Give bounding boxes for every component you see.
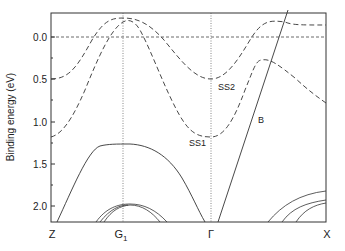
band-annotations: SS2 SS1 B	[189, 82, 264, 148]
ss2-label: SS2	[218, 82, 235, 92]
xtick-label-x: X	[323, 228, 331, 240]
xtick-label-g1: G1	[114, 228, 128, 243]
x-tick-labels: Z G1 Γ X	[49, 228, 332, 243]
b-band-line	[218, 10, 288, 222]
y-axis-ticks	[51, 37, 55, 206]
ytick-label: 0.5	[33, 74, 47, 85]
y-tick-labels: 0.0 0.5 1.0 1.5 2.0	[33, 32, 47, 212]
bulk-band-g1-outer	[96, 204, 167, 222]
ytick-label: 2.0	[33, 201, 47, 212]
band-structure-chart: 0.0 0.5 1.0 1.5 2.0 Binding energy (eV) …	[0, 0, 345, 251]
bulk-band-dome	[57, 144, 205, 222]
ss2-band-curve	[51, 18, 326, 79]
ss1-band-curve	[51, 21, 326, 137]
b-label: B	[258, 115, 264, 125]
xtick-label-gamma: Γ	[208, 228, 214, 240]
ytick-label: 0.0	[33, 32, 47, 43]
ss1-label: SS1	[189, 138, 206, 148]
xtick-label-z: Z	[49, 228, 56, 240]
ytick-label: 1.0	[33, 117, 47, 128]
bulk-band-x-outer	[268, 191, 326, 222]
bulk-band-x-inner	[296, 203, 326, 222]
ytick-label: 1.5	[33, 159, 47, 170]
y-axis-label: Binding energy (eV)	[5, 73, 16, 161]
